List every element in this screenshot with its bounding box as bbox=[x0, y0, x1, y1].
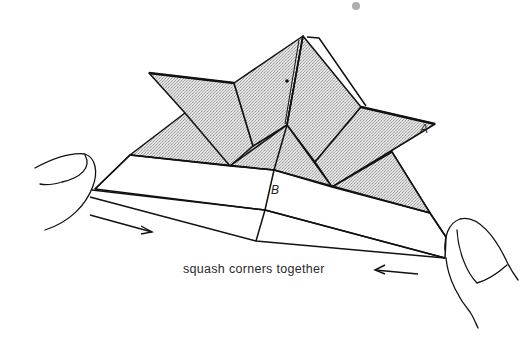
label-b: B bbox=[271, 183, 279, 197]
push-left-arrow bbox=[375, 265, 418, 274]
diagram-canvas: A B bbox=[0, 0, 520, 359]
right-thumb-icon bbox=[445, 218, 518, 328]
paper-model bbox=[90, 36, 446, 258]
reference-dot bbox=[285, 79, 289, 83]
push-right-arrow bbox=[90, 215, 152, 234]
left-thumb-icon bbox=[35, 154, 96, 230]
smudge-mark bbox=[352, 2, 360, 10]
origami-diagram: A B squash corners together bbox=[0, 0, 520, 359]
label-a: A bbox=[419, 122, 428, 136]
instruction-caption: squash corners together bbox=[183, 262, 325, 276]
